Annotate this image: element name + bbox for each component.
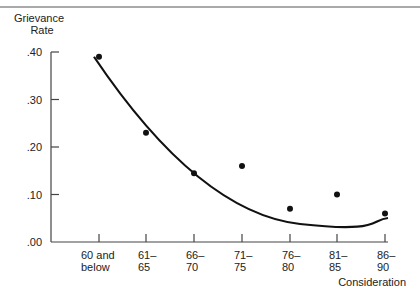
y-axis-label: GrievanceRate xyxy=(14,12,64,36)
svg-text:Grievance: Grievance xyxy=(14,12,64,24)
svg-text:61–: 61– xyxy=(138,249,157,261)
svg-text:76–: 76– xyxy=(282,249,301,261)
axes xyxy=(51,52,388,242)
svg-text:Rate: Rate xyxy=(30,24,53,36)
svg-text:below: below xyxy=(81,261,110,273)
svg-text:.10: .10 xyxy=(27,189,42,201)
svg-text:86–: 86– xyxy=(377,249,396,261)
svg-text:85: 85 xyxy=(329,261,341,273)
svg-text:60 and: 60 and xyxy=(81,249,115,261)
svg-text:.00: .00 xyxy=(27,236,42,248)
svg-text:75: 75 xyxy=(234,261,246,273)
svg-text:80: 80 xyxy=(282,261,294,273)
svg-text:65: 65 xyxy=(138,261,150,273)
svg-text:.40: .40 xyxy=(27,46,42,58)
svg-text:90: 90 xyxy=(377,261,389,273)
svg-text:71–: 71– xyxy=(234,249,253,261)
x-ticks: 60 andbelow61–6566–7071–7576–8081–8586–9… xyxy=(81,234,396,273)
svg-text:.20: .20 xyxy=(27,141,42,153)
x-axis-label: Consideration xyxy=(338,276,406,288)
data-points xyxy=(96,54,388,217)
svg-text:66–: 66– xyxy=(186,249,205,261)
svg-text:81–: 81– xyxy=(329,249,348,261)
fitted-curve xyxy=(94,57,388,227)
y-ticks: .00.10.20.30.40 xyxy=(27,46,59,248)
svg-text:.30: .30 xyxy=(27,94,42,106)
svg-text:70: 70 xyxy=(186,261,198,273)
chart: GrievanceRate .00.10.20.30.40 60 andbelo… xyxy=(0,0,420,304)
